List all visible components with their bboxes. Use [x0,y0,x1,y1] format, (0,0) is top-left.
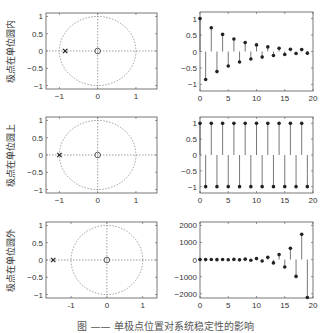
stem-marker [198,17,202,21]
y-tick-label: −1000 [175,273,198,282]
y-tick-label: 0.5 [186,135,198,144]
x-tick-label: 0 [198,94,203,103]
x-tick-label: 5 [226,94,231,103]
stem-marker [283,53,287,57]
stem-marker [232,122,236,126]
x-tick-label: 20 [309,301,318,310]
y-tick-label: 0.5 [32,134,44,143]
y-tick-label: 2000 [179,221,197,230]
y-tick-label: 0.5 [32,239,44,248]
stem-marker [283,265,287,269]
x-tick-label: 0 [198,301,203,310]
y-tick-label: 0.5 [32,30,44,39]
y-tick-label: 1 [39,221,44,230]
y-tick-label: 0 [39,256,44,265]
stem-marker [243,41,247,45]
y-tick-label: 1000 [179,238,197,247]
stem-marker [215,258,219,262]
x-tick-label: 1 [134,196,139,205]
stem-marker [249,258,253,262]
impulse-response-plot-1: 05101520−1−0.500.51 [181,12,318,103]
stem-marker [221,122,225,126]
y-tick-label: −0.5 [27,64,43,73]
x-tick-label: 0 [198,196,203,205]
stem-marker [277,253,281,257]
y-tick-label: −1 [188,183,198,192]
stem-marker [255,122,259,126]
stem-marker [210,26,214,30]
stem-marker [232,37,236,41]
y-tick-label: −1 [188,80,198,89]
x-tick-label: 20 [309,196,318,205]
y-tick-label: −1 [34,291,44,300]
x-tick-label: -1 [68,301,76,310]
stem-marker [221,258,225,262]
stem-marker [272,185,276,189]
stem-marker [260,55,264,59]
x-tick-label: 5 [226,301,231,310]
x-tick-label: 20 [309,94,318,103]
y-axis-label: 极点在单位圆外 [5,229,16,292]
x-tick-label: 0 [95,196,100,205]
x-tick-label: 15 [280,94,289,103]
y-tick-label: 0 [39,47,44,56]
stem-marker [260,259,264,263]
x-tick-label: 0 [105,301,110,310]
y-axis-label: 极点在单位圆上 [5,124,16,187]
x-tick-label: 1 [140,301,145,310]
stem-marker [204,185,208,189]
stem-marker [249,57,253,61]
pole-zero-plot-3: -101−1−0.500.51极点在单位圆外 [5,221,157,310]
stem-marker [210,258,214,262]
y-tick-label: −1 [34,82,44,91]
x-tick-label: 10 [252,196,261,205]
y-tick-label: 0 [193,256,198,265]
x-tick-label: −1 [55,196,65,205]
stem-marker [266,256,270,260]
x-tick-label: 0 [95,92,100,101]
y-tick-label: 0.5 [186,31,198,40]
stem-marker [266,45,270,49]
x-tick-label: 1 [134,92,139,101]
stem-marker [300,122,304,126]
x-tick-label: 15 [280,301,289,310]
stem-marker [272,261,276,265]
y-tick-label: 0 [193,151,198,160]
stem-marker [306,51,310,55]
stem-marker [294,275,298,279]
y-tick-label: 1 [193,15,198,24]
stem-marker [238,60,242,64]
stem-marker [306,296,310,300]
stem-marker [226,64,230,68]
stem-marker [215,70,219,74]
stem-marker [283,185,287,189]
stem-marker [243,257,247,261]
stem-marker [277,122,281,126]
stem-marker [255,43,259,47]
stem-marker [226,258,230,262]
impulse-response-plot-3: 05101520−2000−1000010002000 [175,221,318,310]
y-axis-label: 极点在单位圆内 [5,20,16,83]
stem-marker [198,258,202,262]
y-tick-label: −2000 [175,290,198,299]
y-tick-label: −0.5 [181,64,197,73]
x-tick-label: 5 [226,196,231,205]
pole-zero-plot-1: −101−1−0.500.51极点在单位圆内 [5,12,157,101]
stem-marker [232,258,236,262]
stem-marker [238,185,242,189]
impulse-response-plot-2: 05101520−1−0.500.51 [181,117,318,205]
stem-marker [215,185,219,189]
y-tick-label: 0 [193,48,198,57]
stem-marker [272,54,276,58]
figure-caption: 图 —— 单极点位置对系统稳定性的影响 [0,318,331,333]
y-tick-label: −0.5 [27,273,43,282]
y-tick-label: −0.5 [27,168,43,177]
stem-marker [238,258,242,262]
y-tick-label: −0.5 [181,167,197,176]
stem-marker [289,247,293,251]
stem-marker [198,122,202,126]
x-tick-label: 10 [252,301,261,310]
stem-marker [289,47,293,51]
stem-marker [243,122,247,126]
